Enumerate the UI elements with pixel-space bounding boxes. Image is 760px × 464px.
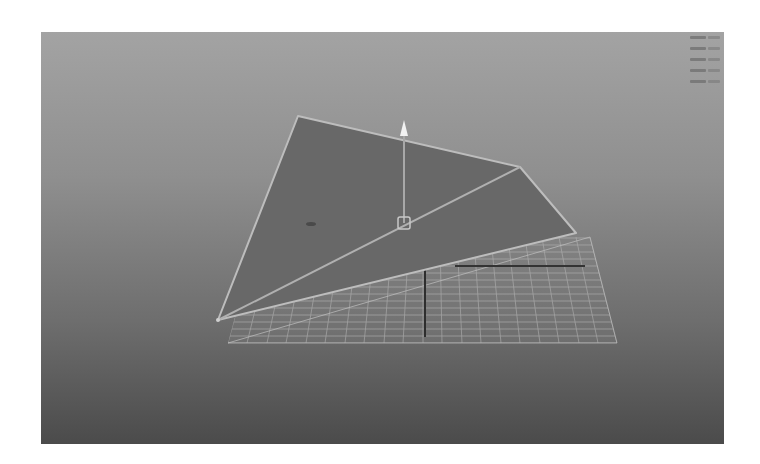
- hud-value: [708, 47, 720, 50]
- arrow-up-icon[interactable]: [400, 120, 408, 136]
- hud-label: [690, 80, 706, 83]
- hud-row: [690, 57, 724, 62]
- hud-row: [690, 68, 724, 73]
- hud-value: [708, 36, 720, 39]
- hud-row: [690, 46, 724, 51]
- hud-label: [690, 47, 706, 50]
- heads-up-display: [690, 32, 724, 84]
- pivot-mark: [306, 222, 316, 226]
- hud-label: [690, 58, 706, 61]
- hud-label: [690, 69, 706, 72]
- hud-value: [708, 80, 720, 83]
- vertex-bottom-left[interactable]: [216, 318, 220, 322]
- 3d-viewport[interactable]: [41, 32, 724, 444]
- hud-label: [690, 36, 706, 39]
- scene-canvas[interactable]: [41, 32, 724, 444]
- hud-value: [708, 58, 720, 61]
- hud-row: [690, 79, 724, 84]
- hud-value: [708, 69, 720, 72]
- hud-row: [690, 35, 724, 40]
